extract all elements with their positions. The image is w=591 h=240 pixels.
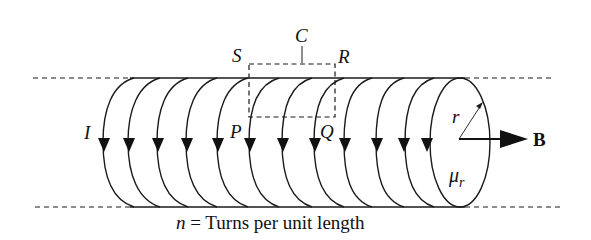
caption: n = Turns per unit length bbox=[176, 212, 365, 233]
corner-label-q: Q bbox=[320, 121, 334, 142]
current-label: I bbox=[83, 122, 92, 143]
current-arrows bbox=[98, 138, 433, 152]
permeability-subscript: r bbox=[459, 175, 465, 190]
arrow-down-icon bbox=[371, 138, 383, 152]
corner-label-p: P bbox=[229, 121, 242, 142]
solenoid-diagram: I C S R P Q r μr B n = Turns per unit le… bbox=[0, 0, 591, 240]
arrow-down-icon bbox=[244, 138, 256, 152]
radius-label: r bbox=[452, 106, 460, 127]
arrow-down-icon bbox=[421, 138, 433, 152]
arrow-down-icon bbox=[212, 138, 224, 152]
b-field-arrowhead-icon bbox=[500, 130, 528, 148]
radius-line bbox=[459, 105, 481, 139]
arrow-down-icon bbox=[98, 138, 110, 152]
loop-label-c: C bbox=[295, 25, 308, 46]
radius-arrowhead-icon bbox=[476, 102, 483, 109]
b-field-arrow bbox=[459, 130, 528, 148]
arrow-down-icon bbox=[123, 138, 135, 152]
radius-indicator bbox=[459, 102, 483, 139]
arrow-down-icon bbox=[181, 138, 193, 152]
arrow-down-icon bbox=[152, 138, 164, 152]
arrow-down-icon bbox=[277, 138, 289, 152]
permeability-label: μr bbox=[448, 164, 465, 190]
caption-text: = Turns per unit length bbox=[186, 212, 366, 233]
amperian-loop bbox=[249, 64, 335, 117]
caption-variable: n bbox=[176, 212, 186, 233]
corner-label-s: S bbox=[232, 45, 242, 66]
permeability-mu: μ bbox=[448, 164, 459, 187]
arrow-down-icon bbox=[398, 138, 410, 152]
arrow-down-icon bbox=[339, 138, 351, 152]
solenoid-body bbox=[130, 78, 465, 207]
corner-label-r: R bbox=[337, 46, 350, 67]
field-label-b: B bbox=[533, 129, 546, 150]
loop-rectangle bbox=[249, 64, 335, 117]
